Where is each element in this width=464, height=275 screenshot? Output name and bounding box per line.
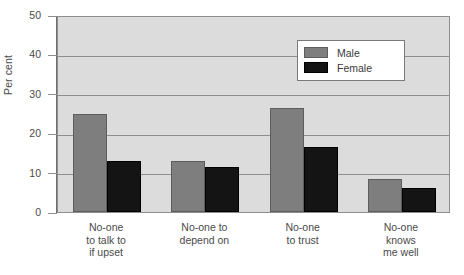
bar-chart-figure: Per cent Male Female 01020304050No-one t… [0,0,464,275]
x-category-label-4: No-one knows me well [352,221,450,259]
legend-item-male: Male [304,45,398,60]
y-tick-mark [48,213,57,214]
legend-label-male: Male [337,47,360,59]
x-category-label-2: No-one to depend on [155,221,253,246]
bar-male-group-2 [171,161,205,212]
bar-female-group-4 [402,188,436,212]
bar-female-group-3 [304,147,338,212]
bar-female-group-2 [205,167,239,212]
y-tick-mark [48,94,57,95]
gridline [58,135,449,136]
y-tick-mark [48,134,57,135]
y-tick-label: 50 [9,10,41,21]
bar-male-group-1 [73,114,107,213]
y-tick-label: 10 [9,168,41,179]
y-tick-label: 30 [9,89,41,100]
y-tick-mark [48,16,57,17]
y-tick-mark [48,173,57,174]
legend-swatch-male-icon [304,47,328,58]
legend-item-female: Female [304,60,398,75]
x-category-label-1: No-one to talk to if upset [57,221,155,259]
chart-legend: Male Female [297,40,405,81]
y-tick-label: 0 [9,207,41,218]
x-category-label-3: No-one to trust [254,221,352,246]
gridline [58,95,449,96]
bar-male-group-3 [270,108,304,212]
y-tick-label: 20 [9,128,41,139]
y-tick-label: 40 [9,49,41,60]
bar-female-group-1 [107,161,141,212]
legend-label-female: Female [337,62,372,74]
legend-swatch-female-icon [304,62,328,73]
y-tick-mark [48,55,57,56]
bar-male-group-4 [368,179,402,212]
